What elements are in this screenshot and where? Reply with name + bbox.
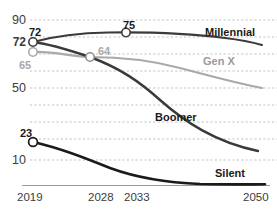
y-tick-label-10: 10	[2, 154, 26, 167]
x-tick-label-2028: 2028	[88, 192, 114, 204]
series-label-silent: Silent	[215, 168, 245, 179]
y-tick-label-90: 90	[2, 14, 26, 27]
x-tick-label-2050: 2050	[243, 192, 269, 204]
data-label-silent-2019: 23	[20, 128, 32, 139]
data-point-markers	[29, 28, 131, 146]
data-label-genx-2019: 65	[19, 60, 31, 71]
x-tick-label-2019: 2019	[17, 192, 43, 204]
marker-genx-2028	[86, 53, 94, 61]
data-label-millennial-2033: 75	[123, 20, 135, 31]
marker-genx-2019	[29, 48, 37, 56]
data-label-millennial-2019: 72	[29, 27, 41, 38]
data-label-genx-2028: 64	[98, 46, 110, 57]
line-chart: 90 72 50 10 2019 2028 2033 2050 72 75 65…	[0, 0, 277, 213]
x-tick-label-2033: 2033	[124, 192, 150, 204]
y-tick-label-72: 72	[2, 36, 26, 48]
marker-millennial-2019	[29, 38, 37, 46]
series-label-genx: Gen X	[203, 56, 235, 67]
y-tick-label-50: 50	[2, 82, 26, 95]
series-label-millennial: Millennial	[205, 27, 255, 38]
series-label-boomer: Boomer	[155, 112, 197, 123]
